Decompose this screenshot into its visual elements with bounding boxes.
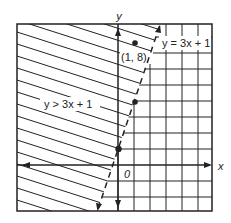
boundary-label: y = 3x + 1	[162, 37, 210, 49]
inequality-graph: y x 0 y = 3x + 1 (1, 8) y > 3x + 1	[0, 0, 231, 223]
x-axis-arrow-right	[204, 162, 212, 168]
shaded-region-label: y > 3x + 1	[44, 98, 92, 110]
point-1-8-label: (1, 8)	[121, 51, 147, 63]
grid	[17, 24, 212, 211]
point-1-4	[132, 99, 138, 105]
boundary-arrow-bottom	[96, 203, 102, 211]
x-axis-label: x	[217, 160, 224, 172]
point-1-8	[132, 40, 138, 46]
point-0-1	[115, 146, 121, 152]
origin-label: 0	[124, 168, 131, 180]
y-axis-arrow-down	[115, 200, 121, 208]
y-axis-label: y	[115, 10, 123, 22]
